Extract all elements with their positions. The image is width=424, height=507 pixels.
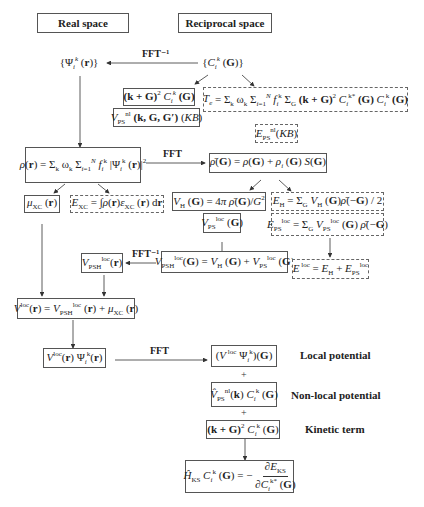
xc-energy-box: EXC = ∫ρ(r)εXC (r) dr — [70, 195, 164, 213]
screened-local-potential-g-box: VPSHloc(G) = VH (G) + VPSloc (G) — [161, 251, 288, 273]
kohn-sham-hamiltonian-box: ĤKS Cik (G) = − ∂EKS ∂Cik* (G) — [185, 460, 294, 493]
local-energy-box: E loc = EH + EPSloc — [292, 259, 369, 279]
local-potential-times-wavefunction-real-box: Vloc(r) Ψik(r) — [43, 348, 106, 368]
local-potential-term-g-box: (V loc Ψik)(G) — [211, 345, 277, 367]
kinetic-term-box: (k + G)2 Cik (G) — [206, 420, 280, 439]
plus-operator-2: + — [241, 407, 247, 418]
reciprocal-space-header: Reciprocal space — [178, 13, 272, 33]
local-potential-label: Local potential — [300, 349, 371, 361]
kinetic-term-label: Kinetic term — [305, 423, 365, 435]
density-reciprocal-box: ρ̄(G) = ρ(G) + ρi (G) S(G) — [209, 153, 327, 173]
kinetic-coefficient-box: (k + G)2 Cik (G) — [123, 88, 195, 106]
kinetic-energy-box: Te = Σk ωk Σi=1N fik ΣG (k + G)2 Cik* (G… — [203, 87, 408, 112]
total-local-potential-real-box: Vloc(r) = VPSHloc (r) + μXC (r) — [17, 298, 135, 319]
fft-label-density: FFT — [163, 148, 182, 159]
nonlocal-potential-term-box: V̂PSnl(k) Cik (G) — [211, 382, 277, 407]
fft-label-product: FFT — [150, 345, 169, 356]
screened-local-potential-real-box: VPSHloc(r) — [81, 253, 123, 273]
local-pseudopotential-energy-box: EPSloc = ΣG VPSloc (G) ρ̄(−G) — [271, 213, 384, 236]
hartree-energy-box: EH = ΣG VH (G)ρ̄(−G) / 2 — [271, 192, 384, 211]
density-real-space-box: ρ(r) = Σk ωk Σi=1N fik |Ψik (r)|2 — [25, 147, 141, 183]
nonlocal-pseudopotential-kb-box: VPSnl (k, G, G′) (KB) — [113, 108, 200, 127]
wavefunction-real-space-node: {Ψik (r)} — [52, 53, 106, 73]
coefficients-reciprocal-node: {Cik (G)} — [200, 53, 246, 73]
local-pseudopotential-g-box: VPSloc (G) — [203, 213, 241, 233]
hartree-potential-box: VH (G) = 4π ρ̄(G)/G2 — [172, 192, 266, 211]
real-space-header: Real space — [37, 13, 129, 33]
xc-potential-box: μXC (r) — [24, 195, 60, 213]
nonlocal-potential-label: Non-local potential — [291, 389, 381, 401]
plus-operator-1: + — [241, 369, 247, 380]
nonlocal-energy-kb-box: EPSnl(KB) — [255, 124, 298, 143]
fft-inverse-label-top: FFT⁻¹ — [142, 48, 169, 59]
